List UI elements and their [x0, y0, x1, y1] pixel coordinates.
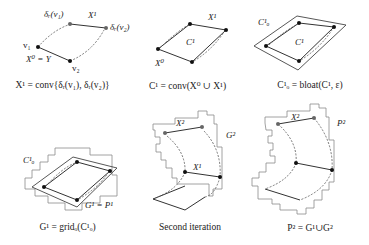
diagram-canvas [0, 0, 369, 245]
caption-panel-4: G¹ = gridₒ(C¹ₒ) [10, 222, 125, 232]
caption-panel-5: Second iteration [140, 222, 240, 232]
label-c1: C¹ [295, 37, 304, 47]
label-x2: X² [176, 118, 184, 128]
caption-panel-3: C¹ₒ = bloat(C¹, ε) [255, 80, 365, 90]
segment-x1 [70, 24, 106, 28]
label-x2: X² [291, 112, 299, 122]
label-x1: X¹ [208, 12, 216, 22]
label-c1o: C¹ₒ [23, 155, 34, 165]
trajectory-v1 [38, 25, 68, 47]
label-delta-v1: δᵣ(v₁) [44, 9, 64, 19]
label-p2: P² [337, 118, 345, 128]
caption-panel-1: X¹ = conv{δᵣ(v₁), δᵣ(v₂)} [0, 80, 125, 90]
label-c1: C¹ [186, 37, 195, 47]
label-g2: G² [226, 130, 235, 140]
point-delta-v2 [104, 26, 108, 30]
grid-g2 [153, 111, 222, 196]
label-v1: v₁ [23, 40, 31, 50]
trajectory-v2 [70, 30, 104, 61]
point-v1 [36, 45, 40, 49]
panel-5-figure [153, 111, 222, 210]
point-delta-v1 [68, 22, 72, 26]
label-v2: v₂ [72, 63, 80, 73]
label-delta-v2: δᵣ(v₂) [110, 22, 130, 32]
label-x0-eq-y: X⁰ = Y [26, 54, 51, 64]
caption-panel-2: C¹ = conv(X⁰ ∪ X¹) [130, 80, 245, 91]
label-x0: X⁰ [155, 58, 164, 68]
label-c1o: C¹ₒ [258, 17, 269, 27]
label-g1-eq-p1: G¹ = P¹ [85, 200, 113, 210]
label-x1: X¹ [88, 10, 96, 20]
segment-x1 [185, 172, 220, 177]
caption-panel-6: P² = G¹∪G² [270, 222, 350, 233]
label-x1: X¹ [193, 162, 201, 172]
